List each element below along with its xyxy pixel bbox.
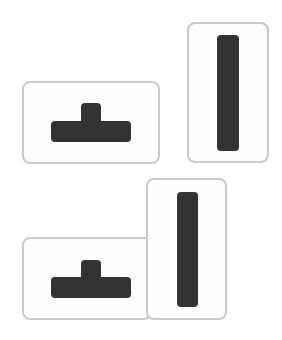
t-piece-segment bbox=[51, 121, 131, 142]
i-piece-segment bbox=[177, 192, 198, 307]
t-piece-segment bbox=[51, 277, 131, 298]
i-piece-segment bbox=[217, 35, 239, 151]
